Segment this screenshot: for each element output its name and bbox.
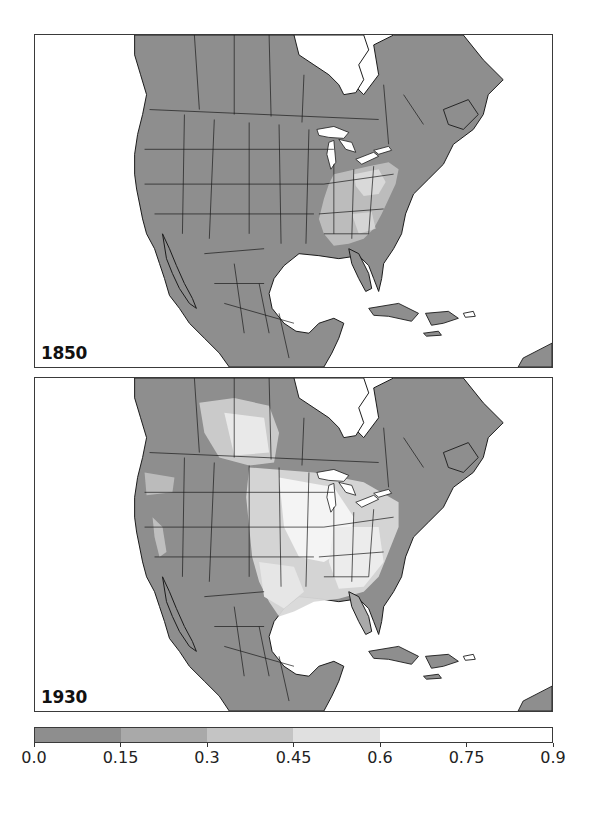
colorbar-tick [34, 743, 35, 747]
map-panel-1930: 1930 [34, 377, 553, 712]
colorbar-segment [380, 728, 552, 742]
north-america-map-1850 [35, 35, 552, 367]
colorbar-segment [35, 728, 121, 742]
colorbar-tick [120, 743, 121, 747]
colorbar-tick [553, 743, 554, 747]
colorbar-tick-label: 0.15 [103, 748, 139, 767]
north-america-map-1930 [35, 378, 552, 711]
colorbar-segment [293, 728, 379, 742]
colorbar-tick [466, 743, 467, 747]
colorbar-tick-label: 0.75 [449, 748, 485, 767]
colorbar-tick-label: 0.45 [276, 748, 312, 767]
colorbar-tick-label: 0.0 [21, 748, 46, 767]
colorbar [34, 727, 553, 743]
colorbar-tick [207, 743, 208, 747]
year-label-1850: 1850 [41, 343, 87, 363]
year-label-1930: 1930 [41, 687, 87, 707]
colorbar-segment [121, 728, 207, 742]
colorbar-segment [207, 728, 293, 742]
colorbar-tick-label: 0.6 [367, 748, 392, 767]
colorbar-tick [380, 743, 381, 747]
map-panel-1850: 1850 [34, 34, 553, 368]
colorbar-tick-label: 0.3 [194, 748, 219, 767]
colorbar-tick [293, 743, 294, 747]
colorbar-tick-label: 0.9 [540, 748, 565, 767]
